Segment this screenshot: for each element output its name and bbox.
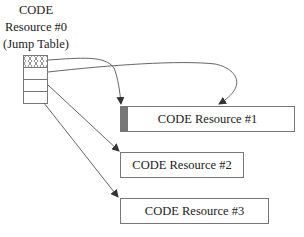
arrow-to-resource-2	[48, 85, 119, 151]
arrow-to-resource-3	[44, 103, 118, 197]
arrow-to-resource-1-strip	[48, 58, 121, 104]
arrow-to-resource-1	[48, 63, 237, 104]
arrows	[0, 0, 304, 237]
